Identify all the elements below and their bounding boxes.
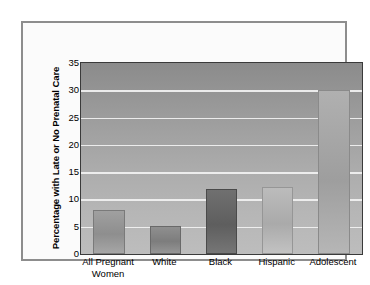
x-tick-label: White [136,256,192,268]
x-tick-label-line: Women [80,268,136,280]
bar [262,187,293,254]
figure: Percentage with Late or No Prenatal Care… [0,0,370,285]
bar [206,189,237,254]
y-tick-label: 35 [63,57,79,68]
x-tick-label: Hispanic [249,256,305,268]
x-axis-tick-labels: All PregnantWomenWhiteBlackHispanicAdole… [80,256,361,285]
x-tick-label-line: All Pregnant [80,256,136,268]
bar [318,90,349,254]
y-tick-label: 15 [63,166,79,177]
bar [93,210,124,254]
y-tick-label: 0 [63,248,79,259]
x-tick-label: Black [192,256,248,268]
bar [150,226,181,254]
y-tick-label: 5 [63,220,79,231]
y-axis-tick-labels: 05101520253035 [63,62,79,253]
x-tick-label: All PregnantWomen [80,256,136,279]
x-tick-label-line: Hispanic [249,256,305,268]
y-tick-label: 10 [63,193,79,204]
x-tick-label: Adolescent [305,256,361,268]
plot-area [80,62,363,255]
chart-frame: Percentage with Late or No Prenatal Care… [21,21,347,261]
y-tick-label: 20 [63,138,79,149]
x-tick-label-line: Adolescent [305,256,361,268]
x-tick-label-line: White [136,256,192,268]
x-tick-label-line: Black [192,256,248,268]
y-tick-label: 30 [63,84,79,95]
y-tick-label: 25 [63,111,79,122]
y-axis-title: Percentage with Late or No Prenatal Care [47,62,63,254]
